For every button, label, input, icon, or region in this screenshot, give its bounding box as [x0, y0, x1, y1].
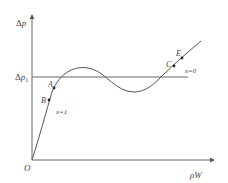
point-e-label: E: [175, 49, 181, 58]
diagram-canvas: Δp Δp1 O ρW A B C E x=1 x=0: [0, 0, 228, 183]
y-axis-label: Δp: [16, 18, 27, 28]
origin-label: O: [24, 163, 31, 173]
reference-line-label: Δp1: [15, 72, 28, 83]
point-b-label: B: [41, 96, 46, 105]
annotation-x0: x=0: [184, 67, 197, 75]
characteristic-curve: [32, 41, 201, 160]
point-c-label: C: [166, 60, 172, 69]
point-e-marker: [181, 57, 184, 60]
point-b-marker: [48, 99, 51, 102]
point-c-marker: [173, 65, 176, 68]
point-a-label: A: [47, 80, 53, 89]
x-axis-label: ρW: [189, 170, 203, 180]
annotation-x1: x=1: [55, 108, 67, 116]
point-a-marker: [53, 87, 56, 90]
